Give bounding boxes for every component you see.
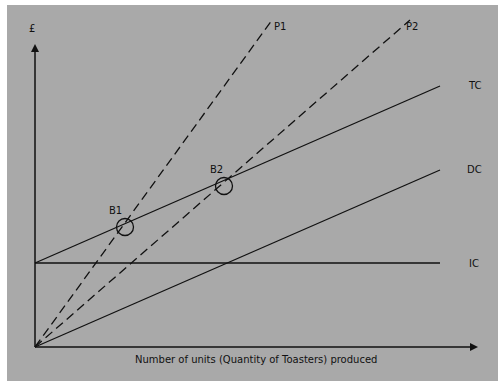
ic-label: IC bbox=[469, 258, 479, 269]
p2-line bbox=[35, 20, 410, 347]
dc-line bbox=[35, 170, 440, 347]
break-even-chart: £ P1 P2 TC DC IC B1 B2 Number of units (… bbox=[0, 0, 504, 384]
b2-label: B2 bbox=[210, 164, 223, 175]
b1-label: B1 bbox=[109, 205, 122, 216]
tc-label: TC bbox=[468, 80, 482, 91]
p2-label: P2 bbox=[406, 21, 418, 32]
dc-label: DC bbox=[467, 164, 482, 175]
y-axis-label: £ bbox=[29, 23, 35, 34]
p1-line bbox=[35, 20, 272, 347]
tc-line bbox=[35, 86, 440, 263]
x-axis-label: Number of units (Quantity of Toasters) p… bbox=[135, 354, 377, 365]
b1-marker bbox=[117, 219, 134, 236]
p1-label: P1 bbox=[274, 21, 286, 32]
